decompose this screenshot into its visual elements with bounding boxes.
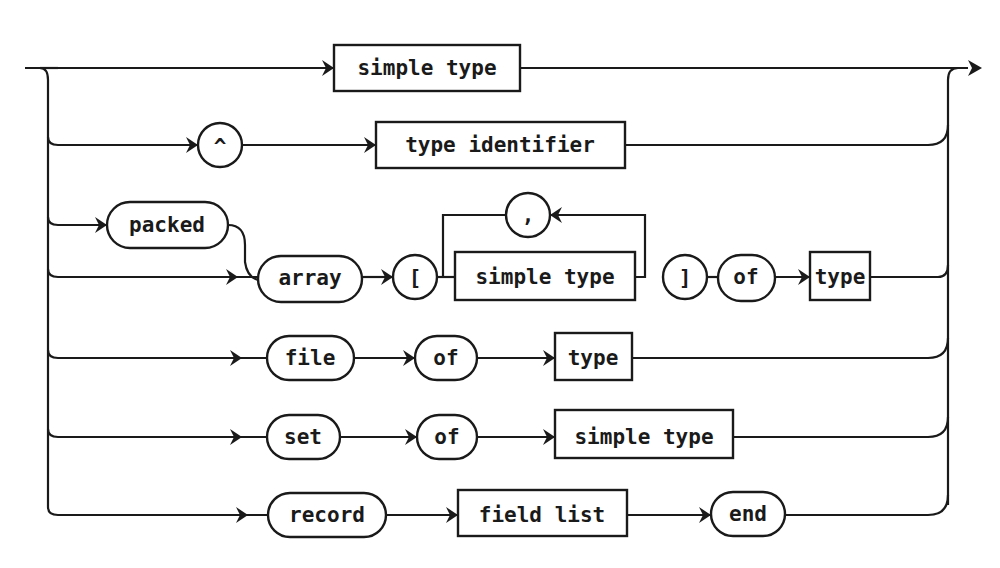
terminal-label: of: [433, 346, 458, 370]
row-simple-type: simple type: [40, 45, 520, 91]
nonterminal-label: type: [815, 265, 866, 289]
terminal-label: of: [434, 425, 459, 449]
terminal-label: set: [284, 425, 322, 449]
terminal-label: ,: [522, 203, 535, 227]
row-packed: packed: [58, 202, 258, 280]
terminal-label: end: [729, 502, 767, 526]
row-record: record field list end: [58, 490, 785, 537]
terminal-label: file: [285, 346, 336, 370]
terminal-label: ^: [214, 135, 227, 159]
left-bus: [25, 68, 58, 515]
terminal-label: of: [733, 265, 758, 289]
nonterminal-label: simple type: [574, 425, 713, 449]
nonterminal-label: simple type: [475, 265, 614, 289]
row-file: file of type: [58, 333, 632, 380]
nonterminal-label: field list: [479, 503, 605, 527]
exit-arrow-icon: [968, 60, 982, 76]
nonterminal-label: type: [568, 346, 619, 370]
nonterminal-label: type identifier: [405, 133, 595, 157]
terminal-label: array: [278, 266, 342, 290]
terminal-label: [: [409, 266, 422, 290]
syntax-diagram: " simple type ^ type identifier: [0, 0, 1000, 568]
row-pointer: ^ type identifier: [58, 122, 625, 168]
terminal-label: ]: [679, 266, 692, 290]
row-set: set of simple type: [58, 410, 733, 459]
nonterminal-label: simple type: [357, 56, 496, 80]
terminal-label: record: [289, 503, 365, 527]
terminal-label: packed: [129, 213, 205, 237]
corner-mark: ": [34, 0, 42, 10]
